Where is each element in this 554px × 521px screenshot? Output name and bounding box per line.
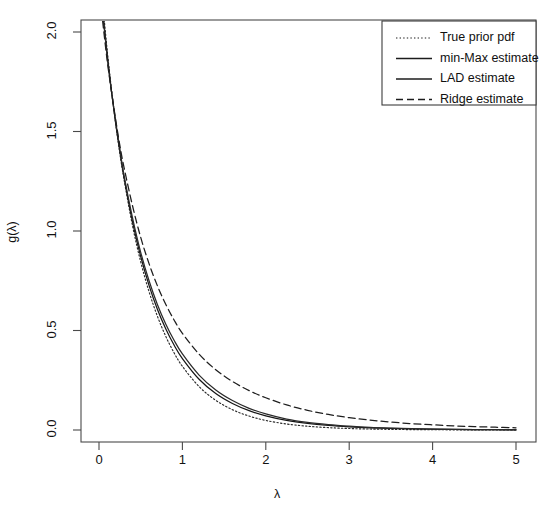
x-tick-label: 1 (162, 452, 202, 467)
y-tick-label: 1.0 (44, 207, 59, 253)
x-axis-label: λ (0, 487, 554, 501)
legend-label-true-prior-pdf: True prior pdf (440, 30, 515, 44)
legend-label-ridge-estimate: Ridge estimate (440, 92, 523, 106)
x-tick-label: 2 (246, 452, 286, 467)
y-tick-label: 0.5 (44, 306, 59, 352)
x-tick-label: 5 (496, 452, 536, 467)
x-tick-label: 3 (329, 452, 369, 467)
legend-label-lad-estimate: LAD estimate (440, 71, 515, 85)
x-tick-label: 0 (79, 452, 119, 467)
y-tick-label: 0.0 (44, 406, 59, 452)
chart-canvas: λ g(λ) 012345 0.00.51.01.52.0 True prior… (0, 0, 554, 521)
y-tick-label: 1.5 (44, 107, 59, 153)
legend-label-min-max-estimate: min-Max estimate (440, 51, 539, 65)
y-tick-label: 2.0 (44, 8, 59, 54)
y-axis-label: g(λ) (5, 202, 19, 262)
x-tick-label: 4 (413, 452, 453, 467)
